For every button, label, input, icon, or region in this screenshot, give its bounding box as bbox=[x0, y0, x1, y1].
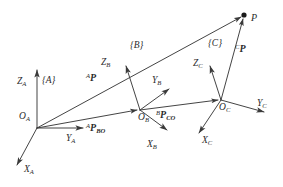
axis-label-ya: YA bbox=[66, 134, 75, 144]
frame-c-axes bbox=[199, 66, 264, 133]
origin-subscript-ob: B bbox=[145, 116, 149, 123]
diagram-canvas bbox=[0, 0, 283, 187]
axis-label-xc: XC bbox=[202, 136, 212, 146]
vector-label-c-p: CP bbox=[235, 44, 246, 54]
axis-subscript-yb: B bbox=[157, 79, 161, 86]
axis-zc-arrow bbox=[210, 66, 221, 100]
axis-xc-arrow bbox=[199, 100, 221, 133]
axis-subscript-zb: B bbox=[106, 61, 110, 68]
origin-label-oa: OA bbox=[19, 112, 30, 122]
vector-superscript-c-p: C bbox=[235, 43, 239, 50]
axis-xa-arrow bbox=[17, 128, 37, 165]
frame-label-c: {C} bbox=[208, 39, 222, 49]
axis-label-yc: YC bbox=[257, 99, 267, 109]
vector-subscript-a-p-bo: BO bbox=[96, 127, 105, 134]
frame-label-a: {A} bbox=[42, 76, 55, 86]
axis-label-za: ZA bbox=[17, 77, 26, 87]
axis-label-zb: ZB bbox=[101, 58, 110, 68]
vector-label-a-p: AP bbox=[86, 73, 96, 83]
vector-subscript-b-p-co: CO bbox=[166, 114, 175, 121]
origin-label-oc: OC bbox=[219, 103, 230, 113]
point-p-marker bbox=[241, 12, 246, 17]
axis-subscript-ya: A bbox=[71, 137, 75, 144]
vector-superscript-b-p-co: B bbox=[156, 109, 160, 116]
axis-label-yb: YB bbox=[152, 76, 161, 86]
point-label-p: P bbox=[251, 13, 257, 23]
coordinate-frames-figure: ZA {A} OA YA XA ZB {B} OB YB XB ZC {C} O… bbox=[0, 0, 283, 187]
axis-label-zc: ZC bbox=[193, 59, 203, 69]
vector-superscript-a-p: A bbox=[86, 72, 90, 79]
origin-subscript-oc: C bbox=[226, 106, 230, 113]
vector-superscript-a-p-bo: A bbox=[86, 122, 90, 129]
axis-subscript-yc: C bbox=[262, 102, 266, 109]
axis-subscript-za: A bbox=[22, 80, 26, 87]
axis-subscript-xc: C bbox=[208, 139, 212, 146]
origin-label-ob: OB bbox=[138, 113, 149, 123]
vector-c-p bbox=[221, 19, 243, 100]
axis-label-xa: XA bbox=[24, 165, 34, 175]
vector-label-b-p-co: BPCO bbox=[156, 110, 175, 120]
axis-subscript-zc: C bbox=[198, 62, 202, 69]
frame-label-b: {B} bbox=[130, 41, 143, 51]
axis-subscript-xb: B bbox=[153, 143, 157, 150]
axis-label-xb: XB bbox=[147, 140, 157, 150]
axis-subscript-xa: A bbox=[30, 168, 34, 175]
origin-subscript-oa: A bbox=[26, 115, 30, 122]
vector-label-a-p-bo: APBO bbox=[86, 123, 105, 133]
